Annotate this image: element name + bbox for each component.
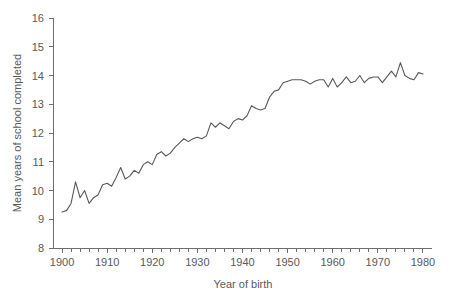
x-tick-label: 1930 [185,256,209,268]
y-tick-label: 10 [32,185,44,197]
y-axis-ticks: 8910111213141516 [32,12,53,254]
y-tick-label: 12 [32,127,44,139]
y-tick-label: 11 [33,156,44,168]
x-tick-label: 1950 [275,256,299,268]
x-axis: 190019101920193019401950196019701980 Yea… [50,248,435,290]
x-axis-title: Year of birth [214,278,273,290]
x-tick-label: 1900 [50,256,74,268]
line-chart: 8910111213141516 Mean years of school co… [0,0,452,302]
chart-container: 8910111213141516 Mean years of school co… [0,0,452,302]
y-axis: 8910111213141516 Mean years of school co… [11,12,53,254]
y-tick-label: 8 [38,242,44,254]
y-tick-label: 15 [32,41,44,53]
x-tick-label: 1940 [230,256,254,268]
x-axis-ticks: 190019101920193019401950196019701980 [50,248,435,268]
y-tick-label: 14 [32,70,44,82]
x-tick-label: 1970 [366,256,390,268]
x-tick-label: 1920 [140,256,164,268]
y-tick-label: 9 [38,213,44,225]
x-tick-label: 1960 [320,256,344,268]
x-tick-label: 1980 [411,256,435,268]
data-series-line [62,63,423,213]
y-tick-label: 13 [32,98,44,110]
y-tick-label: 16 [32,12,44,24]
y-axis-title: Mean years of school completed [11,54,23,212]
x-tick-label: 1910 [95,256,119,268]
